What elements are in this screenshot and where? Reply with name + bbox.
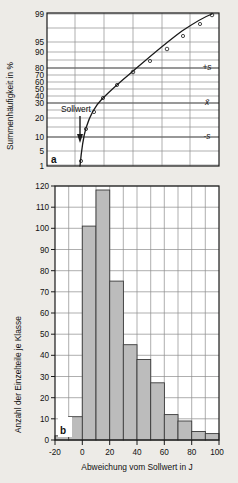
histogram-bar: [151, 383, 165, 440]
marker-mean-label: x̄: [204, 97, 210, 107]
panel-b-ytick-20: 20: [40, 394, 50, 403]
panel-b-ytick-80: 80: [40, 267, 50, 276]
histogram-bar: [123, 345, 137, 440]
panel-a-ytick-99: 99: [35, 10, 45, 19]
panel-b-xtick-minus20: -20: [49, 448, 61, 457]
panel-b-ytick-60: 60: [40, 309, 50, 318]
sollwert-label: Sollwert: [61, 104, 91, 114]
panel-b-xtick-40: 40: [132, 448, 142, 457]
panel-b-xtick-100: 100: [210, 448, 224, 457]
panel-b-xtick-20: 20: [105, 448, 115, 457]
histogram-bar: [110, 281, 124, 440]
histogram-bar: [82, 226, 96, 440]
panel-a-ytick-10: 10: [35, 133, 45, 142]
figure-container: 99 95 90 80 70 60 50 40 30 20 10 5 1 Sum…: [0, 0, 238, 483]
panel-a-ytick-20: 20: [35, 114, 45, 123]
panel-b-ytick-70: 70: [40, 288, 50, 297]
panel-a-ytick-95: 95: [35, 38, 45, 47]
panel-b-xtick-0: 0: [80, 448, 85, 457]
histogram-bar: [192, 432, 206, 441]
histogram-bar: [178, 421, 192, 440]
panel-b-ytick-120: 120: [35, 182, 49, 191]
panel-b-ytick-50: 50: [40, 330, 50, 339]
figure-svg: 99 95 90 80 70 60 50 40 30 20 10 5 1 Sum…: [0, 0, 238, 483]
panel-b-xlabel: Abweichung vom Sollwert in J: [81, 462, 192, 472]
marker-plus-s-label: +s: [202, 62, 212, 72]
panel-a-ytick-1: 1: [39, 162, 44, 171]
panel-b-ytick-110: 110: [36, 203, 49, 212]
panel-b-ytick-10: 10: [40, 415, 50, 424]
panel-b-ytick-30: 30: [40, 373, 50, 382]
panel-a-ytick-5: 5: [39, 147, 44, 156]
panel-b-ytick-90: 90: [40, 246, 50, 255]
panel-b-label: b: [60, 425, 66, 436]
panel-a-ylabel: Summenhäufigkeit in %: [5, 61, 15, 150]
panel-b-xtick-80: 80: [187, 448, 197, 457]
marker-minus-s-label: -s: [204, 131, 212, 141]
panel-b-ytick-40: 40: [40, 351, 50, 360]
histogram-bar: [164, 415, 178, 440]
panel-a-ytick-90: 90: [35, 48, 45, 57]
panel-b-ytick-100: 100: [35, 224, 49, 233]
histogram-bar: [205, 434, 219, 440]
panel-b-ylabel: Anzahl der Einzelteile je Klasse: [13, 316, 23, 433]
panel-a-label: a: [51, 154, 57, 165]
panel-a-ytick-30: 30: [35, 99, 45, 108]
histogram-bar: [137, 360, 151, 441]
panel-b-ytick-0: 0: [44, 436, 49, 445]
panel-b-xtick-60: 60: [160, 448, 170, 457]
histogram-bar: [96, 190, 110, 440]
